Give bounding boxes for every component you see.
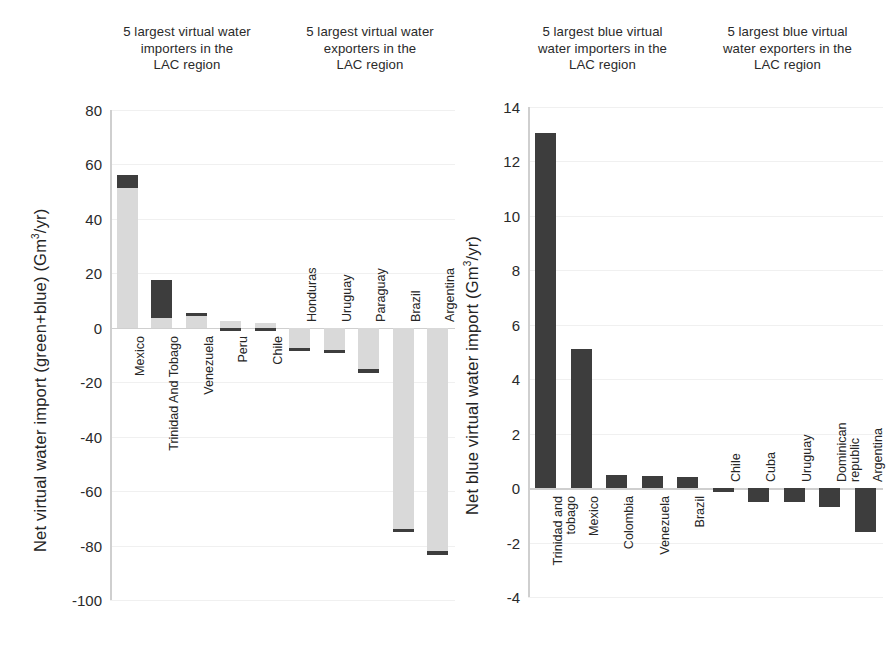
figure-root: 5 largest virtual water importers in the… xyxy=(0,0,895,650)
y-tick-label: 10 xyxy=(474,207,520,224)
bar-segment-green[interactable] xyxy=(289,328,310,348)
y-axis-title-right-suffix: /yr) xyxy=(463,236,481,261)
x-category-label: Uruguay xyxy=(341,274,354,322)
y-tick-label: 12 xyxy=(474,153,520,170)
x-category-label: Colombia xyxy=(623,496,636,549)
bar-segment-blue[interactable] xyxy=(606,475,627,489)
bar-segment-blue[interactable] xyxy=(220,328,241,331)
x-category-label: Honduras xyxy=(306,267,319,322)
x-category-label: Venezuela xyxy=(659,496,672,555)
y-tick-label: 60 xyxy=(56,156,102,173)
x-category-label: Dominican republic xyxy=(836,423,862,483)
y-axis-title-right-prefix: Net blue virtual water import (Gm xyxy=(463,266,481,515)
bar-group[interactable] xyxy=(289,110,310,600)
y-tick-label: -60 xyxy=(56,483,102,500)
bar-segment-blue[interactable] xyxy=(571,349,592,488)
bar-segment-blue[interactable] xyxy=(748,488,769,502)
bar-segment-blue[interactable] xyxy=(151,280,172,317)
bar-segment-blue[interactable] xyxy=(855,488,876,532)
y-tick-label: 4 xyxy=(474,371,520,388)
y-axis-title-left-suffix: /yr) xyxy=(31,209,49,234)
bar-segment-green[interactable] xyxy=(186,316,207,328)
x-category-label: Argentina xyxy=(872,428,885,482)
bar-group[interactable] xyxy=(855,107,876,597)
x-category-label: Uruguay xyxy=(801,435,814,483)
bar-segment-blue[interactable] xyxy=(784,488,805,502)
group-title-exporters-left: 5 largest virtual water exporters in the… xyxy=(275,24,465,74)
bar-segment-blue[interactable] xyxy=(358,369,379,373)
bar-group[interactable] xyxy=(393,110,414,600)
y-tick-label: -20 xyxy=(56,374,102,391)
x-category-label: Chile xyxy=(730,453,743,482)
bar-segment-blue[interactable] xyxy=(255,328,276,331)
x-category-label: Brazil xyxy=(694,496,707,528)
x-category-label: Brazil xyxy=(410,290,423,322)
x-category-label: Trinidad and tobago xyxy=(552,496,578,566)
bar-segment-green[interactable] xyxy=(393,328,414,529)
bar-segment-blue[interactable] xyxy=(819,488,840,507)
bar-segment-blue[interactable] xyxy=(677,477,698,488)
y-tick-label: 0 xyxy=(56,319,102,336)
y-tick-label: -4 xyxy=(474,589,520,606)
y-axis-title-right-exponent: 3 xyxy=(462,261,473,267)
y-tick-label: 8 xyxy=(474,262,520,279)
group-title-importers-left: 5 largest virtual water importers in the… xyxy=(92,24,282,74)
bar-segment-green[interactable] xyxy=(220,321,241,328)
bar-group[interactable] xyxy=(784,107,805,597)
bar-group[interactable] xyxy=(324,110,345,600)
bar-group[interactable] xyxy=(748,107,769,597)
bar-segment-green[interactable] xyxy=(324,328,345,350)
group-title-importers-right: 5 largest blue virtual water importers i… xyxy=(510,24,695,74)
y-axis-title-left-exponent: 3 xyxy=(30,233,41,239)
bar-segment-blue[interactable] xyxy=(393,529,414,532)
y-tick-label: 2 xyxy=(474,425,520,442)
x-category-label: Mexico xyxy=(134,336,147,376)
bar-group[interactable] xyxy=(819,107,840,597)
bar-segment-green[interactable] xyxy=(151,318,172,328)
y-tick-label: 0 xyxy=(474,480,520,497)
bar-segment-blue[interactable] xyxy=(117,175,138,188)
y-axis-title-left: Net virtual water import (green+blue) (G… xyxy=(30,209,50,553)
y-tick-label: -40 xyxy=(56,428,102,445)
bar-segment-blue[interactable] xyxy=(713,488,734,492)
x-category-label: Mexico xyxy=(588,496,601,536)
x-category-label: Paraguay xyxy=(375,268,388,322)
chart-panel-blue: 5 largest blue virtual water importers i… xyxy=(440,0,895,650)
y-tick-label: 20 xyxy=(56,265,102,282)
x-category-label: Chile xyxy=(272,336,285,365)
bar-segment-blue[interactable] xyxy=(535,133,556,488)
x-category-label: Cuba xyxy=(765,452,778,482)
y-tick-label: 40 xyxy=(56,210,102,227)
bar-segment-blue[interactable] xyxy=(642,476,663,488)
bar-segment-blue[interactable] xyxy=(186,313,207,316)
x-category-label: Trinidad And Tobago xyxy=(168,336,181,451)
gridline xyxy=(528,597,883,598)
y-axis-line xyxy=(110,110,112,600)
bar-segment-green[interactable] xyxy=(117,188,138,328)
bar-group[interactable] xyxy=(713,107,734,597)
gridline xyxy=(110,600,455,601)
chart-panel-green-blue: 5 largest virtual water importers in the… xyxy=(0,0,455,650)
y-axis-title-left-prefix: Net virtual water import (green+blue) (G… xyxy=(31,239,49,552)
bar-segment-green[interactable] xyxy=(358,328,379,369)
bar-group[interactable] xyxy=(358,110,379,600)
bar-segment-blue[interactable] xyxy=(289,348,310,351)
y-axis-line xyxy=(528,107,530,597)
bar-segment-blue[interactable] xyxy=(324,350,345,353)
x-category-label: Venezuela xyxy=(203,336,216,395)
y-tick-label: -80 xyxy=(56,537,102,554)
y-tick-label: 80 xyxy=(56,102,102,119)
y-tick-label: 6 xyxy=(474,316,520,333)
y-tick-label: 14 xyxy=(474,99,520,116)
y-tick-label: -100 xyxy=(56,592,102,609)
group-title-exporters-right: 5 largest blue virtual water exporters i… xyxy=(695,24,880,74)
y-tick-label: -2 xyxy=(474,534,520,551)
x-category-label: Peru xyxy=(237,336,250,363)
